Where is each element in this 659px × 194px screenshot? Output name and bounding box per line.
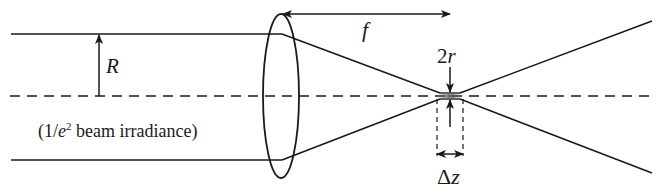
focal-length-label: f [362, 17, 371, 42]
gaussian-beam-focusing-diagram: R f 2r Δz (1/e2 beam irradiance) [0, 0, 659, 194]
waist-glow [436, 91, 464, 101]
waist-diameter-label: 2r [437, 44, 457, 68]
beam-radius-label: R [105, 54, 119, 78]
ray-bottom-diverging [460, 99, 652, 173]
ray-bottom-converging [282, 99, 440, 160]
ray-top-diverging [460, 21, 652, 93]
beam-irradiance-note: (1/e2 beam irradiance) [38, 120, 197, 142]
depth-of-focus-label: Δz [437, 164, 460, 189]
ray-top-converging [282, 34, 440, 93]
